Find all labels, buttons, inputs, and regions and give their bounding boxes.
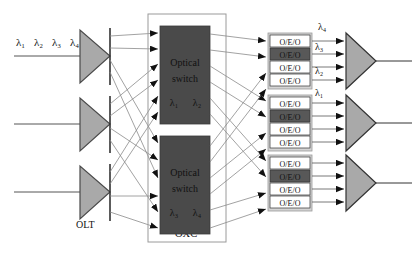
oeo-box-1-2-label: O/E/O — [280, 51, 301, 60]
optical-switch-top-lambda-b: λ₂ — [193, 97, 201, 108]
oeo-box-1-3-label: O/E/O — [280, 64, 301, 73]
output-label-lambda2: λ₂ — [315, 65, 323, 76]
output-label-lambda4: λ₄ — [318, 21, 327, 32]
input-label-lambda3: λ₃ — [52, 36, 61, 48]
oeo-box-1-1-label: O/E/O — [280, 38, 301, 47]
output-label-lambda3: λ₃ — [315, 41, 323, 52]
olt-label: OLT — [76, 219, 95, 230]
network-diagram: λ₁ λ₂ λ₃ λ₄ OLT OXC — [0, 0, 419, 265]
input-label-lambda1: λ₁ — [16, 36, 25, 48]
optical-switch-bottom-lambda-b: λ₄ — [193, 207, 202, 218]
olt-multiplexers — [80, 28, 110, 221]
oeo-box-2-4-label: O/E/O — [280, 139, 301, 148]
optical-switch-top[interactable]: Optical switch λ₁ λ₂ — [160, 26, 210, 124]
input-label-lambda4: λ₄ — [70, 36, 79, 48]
optical-switch-bottom-line1: Optical — [170, 167, 200, 178]
oeo-box-1-4-label: O/E/O — [280, 77, 301, 86]
optical-switch-top-line2: switch — [172, 73, 198, 84]
optical-switch-bottom-line2: switch — [172, 183, 198, 194]
optical-switch-bottom[interactable]: Optical switch λ₃ λ₄ — [160, 136, 210, 234]
optical-switch-bottom-lambda-a: λ₃ — [170, 207, 178, 218]
oeo-box-2-2-label: O/E/O — [280, 113, 301, 122]
oeo-group-3: O/E/O O/E/O O/E/O O/E/O — [268, 155, 312, 211]
output-label-lambda1: λ₁ — [315, 87, 323, 98]
optical-switch-top-line1: Optical — [170, 57, 200, 68]
oeo-group-1: O/E/O O/E/O O/E/O O/E/O — [268, 33, 312, 89]
figure-canvas: λ₁ λ₂ λ₃ λ₄ OLT OXC — [0, 0, 419, 265]
input-label-lambda2: λ₂ — [34, 36, 43, 48]
oeo-group-2: O/E/O O/E/O O/E/O O/E/O — [268, 95, 312, 151]
oeo-box-3-1-label: O/E/O — [280, 160, 301, 169]
oeo-box-3-3-label: O/E/O — [280, 186, 301, 195]
optical-switch-top-lambda-a: λ₁ — [170, 97, 178, 108]
oeo-box-3-2-label: O/E/O — [280, 173, 301, 182]
oeo-box-2-3-label: O/E/O — [280, 126, 301, 135]
oeo-box-3-4-label: O/E/O — [280, 199, 301, 208]
oeo-box-2-1-label: O/E/O — [280, 100, 301, 109]
